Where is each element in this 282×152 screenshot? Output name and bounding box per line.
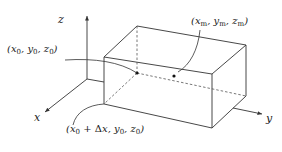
leader-p1 (73, 104, 104, 125)
label-x0y0z0: (x0, y0, z0) (7, 44, 58, 56)
x-axis-label: x (34, 112, 40, 123)
y-axis (233, 108, 262, 114)
label-xmymzm: (xm, ym, zm) (191, 16, 248, 28)
x-axis (45, 79, 87, 112)
point-xmymzm (172, 74, 175, 77)
y-axis-label: y (266, 113, 272, 124)
y-axis-inner (87, 79, 104, 82)
leader-p0 (65, 60, 137, 73)
label-x0dx-y0z0: (x0 + Δx, y0, z0) (66, 124, 144, 136)
z-axis-label: z (58, 14, 64, 25)
box-hidden-edges (104, 26, 246, 104)
